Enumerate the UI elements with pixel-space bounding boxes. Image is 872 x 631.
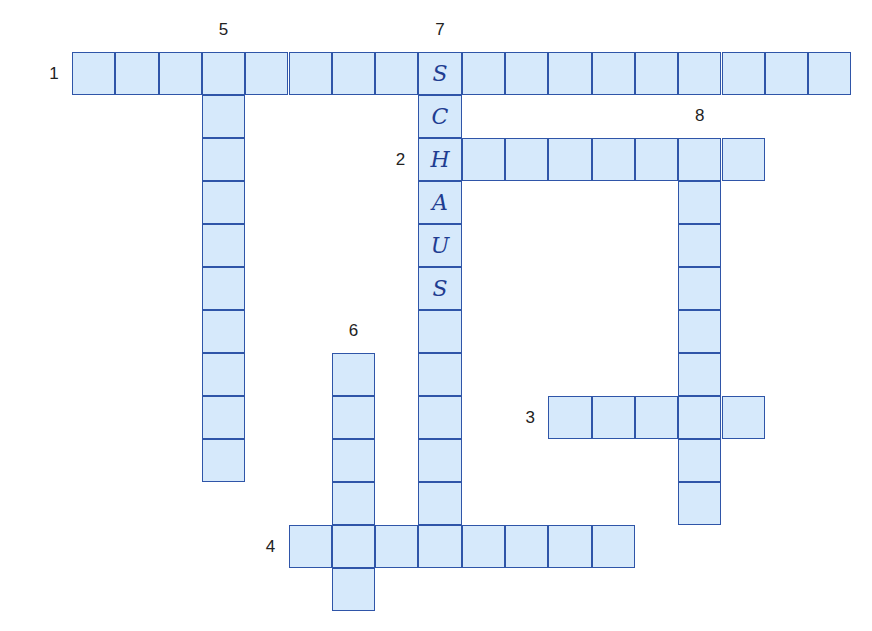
crossword-cell[interactable]: A <box>418 181 461 224</box>
clue-number-8: 8 <box>690 106 710 126</box>
crossword-cell[interactable] <box>462 525 505 568</box>
crossword-cell[interactable] <box>592 52 635 95</box>
crossword-cell[interactable] <box>808 52 851 95</box>
clue-number-1: 1 <box>44 64 64 84</box>
crossword-cell[interactable] <box>375 525 418 568</box>
crossword-cell[interactable] <box>418 482 461 525</box>
crossword-cell[interactable] <box>202 95 245 138</box>
clue-number-2: 2 <box>390 150 410 170</box>
crossword-cell[interactable] <box>202 181 245 224</box>
crossword-cell[interactable] <box>635 52 678 95</box>
crossword-grid: 12345678SHCAUS <box>0 0 872 631</box>
crossword-cell[interactable] <box>678 396 721 439</box>
crossword-cell[interactable]: C <box>418 95 461 138</box>
crossword-cell[interactable] <box>202 52 245 95</box>
crossword-cell[interactable] <box>635 396 678 439</box>
clue-number-3: 3 <box>520 408 540 428</box>
crossword-cell[interactable] <box>722 138 765 181</box>
crossword-cell[interactable] <box>159 52 202 95</box>
crossword-cell[interactable] <box>678 181 721 224</box>
crossword-cell[interactable] <box>548 525 591 568</box>
crossword-cell[interactable] <box>462 138 505 181</box>
crossword-cell[interactable] <box>418 310 461 353</box>
crossword-cell[interactable] <box>202 353 245 396</box>
crossword-cell[interactable] <box>592 138 635 181</box>
crossword-cell[interactable] <box>332 568 375 611</box>
crossword-cell[interactable] <box>289 525 332 568</box>
clue-number-7: 7 <box>430 20 450 40</box>
crossword-cell[interactable] <box>678 353 721 396</box>
crossword-cell[interactable] <box>202 310 245 353</box>
crossword-cell[interactable] <box>678 138 721 181</box>
crossword-cell[interactable]: U <box>418 224 461 267</box>
crossword-cell[interactable] <box>592 396 635 439</box>
crossword-cell[interactable] <box>332 482 375 525</box>
crossword-cell[interactable] <box>505 525 548 568</box>
crossword-cell[interactable] <box>505 52 548 95</box>
crossword-cell[interactable] <box>245 52 288 95</box>
crossword-cell[interactable] <box>202 396 245 439</box>
crossword-cell[interactable] <box>765 52 808 95</box>
crossword-cell[interactable] <box>678 482 721 525</box>
crossword-cell[interactable] <box>418 353 461 396</box>
clue-number-4: 4 <box>261 537 281 557</box>
crossword-cell[interactable] <box>678 439 721 482</box>
crossword-cell[interactable] <box>678 224 721 267</box>
crossword-cell[interactable] <box>202 138 245 181</box>
crossword-cell[interactable]: S <box>418 267 461 310</box>
crossword-cell[interactable] <box>375 52 418 95</box>
crossword-cell[interactable] <box>678 267 721 310</box>
crossword-cell[interactable] <box>678 52 721 95</box>
crossword-cell[interactable] <box>332 525 375 568</box>
crossword-cell[interactable] <box>678 310 721 353</box>
crossword-cell[interactable] <box>722 52 765 95</box>
crossword-cell[interactable] <box>289 52 332 95</box>
crossword-cell[interactable] <box>548 52 591 95</box>
crossword-cell[interactable] <box>332 396 375 439</box>
crossword-cell[interactable] <box>505 138 548 181</box>
crossword-cell[interactable] <box>548 396 591 439</box>
crossword-cell[interactable] <box>635 138 678 181</box>
crossword-cell[interactable] <box>418 525 461 568</box>
crossword-cell[interactable] <box>72 52 115 95</box>
crossword-cell[interactable]: S <box>418 52 461 95</box>
crossword-cell[interactable] <box>115 52 158 95</box>
crossword-cell[interactable] <box>202 439 245 482</box>
crossword-cell[interactable] <box>202 267 245 310</box>
crossword-cell[interactable] <box>332 439 375 482</box>
crossword-cell[interactable] <box>202 224 245 267</box>
crossword-cell[interactable] <box>332 52 375 95</box>
crossword-cell[interactable] <box>332 353 375 396</box>
crossword-cell[interactable] <box>462 52 505 95</box>
crossword-cell[interactable] <box>722 396 765 439</box>
crossword-cell[interactable] <box>548 138 591 181</box>
clue-number-5: 5 <box>214 20 234 40</box>
crossword-cell[interactable] <box>418 439 461 482</box>
crossword-cell[interactable] <box>418 396 461 439</box>
crossword-cell[interactable]: H <box>418 138 461 181</box>
clue-number-6: 6 <box>343 321 363 341</box>
crossword-cell[interactable] <box>592 525 635 568</box>
